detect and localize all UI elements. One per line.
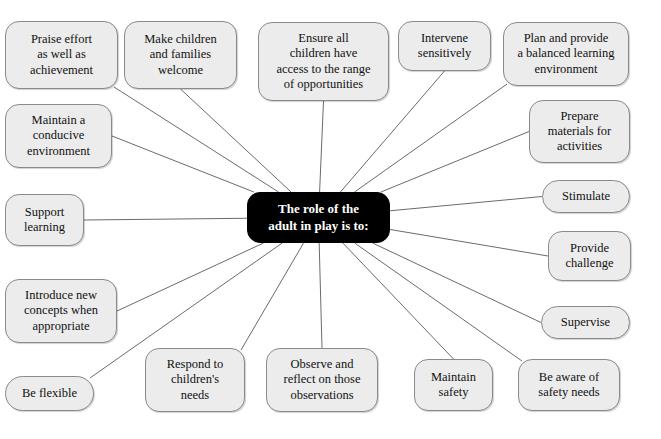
edge-respond-needs-to-center [241,243,304,350]
node-label-ensure-access: Ensure all children have access to the r… [264,31,383,92]
node-introduce-concepts[interactable]: Introduce new concepts when appropriate [5,279,117,343]
node-be-aware-safety[interactable]: Be aware of safety needs [518,359,620,411]
edge-introduce-concepts-to-center [117,243,264,311]
edge-make-welcome-to-center [181,89,292,192]
node-label-plan-provide: Plan and provide a balanced learning env… [509,31,623,77]
node-label-be-flexible: Be flexible [11,386,88,401]
node-label-intervene: Intervene sensitively [404,31,485,62]
edge-prepare-materials-to-center [381,132,529,193]
node-label-maintain-conducive: Maintain a conducive environment [11,113,106,159]
node-label-be-aware-safety: Be aware of safety needs [524,370,614,401]
node-respond-needs[interactable]: Respond to children's needs [145,348,245,412]
node-praise-effort[interactable]: Praise effort as well as achievement [5,21,118,89]
node-supervise[interactable]: Supervise [541,306,630,339]
edge-support-learning-to-center [84,218,247,220]
node-label-support-learning: Support learning [11,205,78,236]
edge-stimulate-to-center [390,197,542,211]
node-label-introduce-concepts: Introduce new concepts when appropriate [11,288,111,334]
edge-maintain-conducive-to-center [112,136,254,192]
node-label-observe-reflect: Observe and reflect on those observation… [272,357,372,403]
node-be-flexible[interactable]: Be flexible [5,376,94,411]
node-observe-reflect[interactable]: Observe and reflect on those observation… [266,348,378,412]
edge-observe-reflect-to-center [319,243,322,348]
node-maintain-conducive[interactable]: Maintain a conducive environment [5,104,112,168]
edge-provide-challenge-to-center [390,229,548,256]
node-make-welcome[interactable]: Make children and families welcome [124,21,237,89]
node-label-provide-challenge: Provide challenge [554,241,625,272]
node-label-respond-needs: Respond to children's needs [151,357,239,403]
center-node[interactable]: The role of the adult in play is to: [247,192,390,243]
node-support-learning[interactable]: Support learning [5,194,84,246]
node-plan-provide[interactable]: Plan and provide a balanced learning env… [503,22,629,86]
node-prepare-materials[interactable]: Prepare materials for activities [529,100,630,163]
node-ensure-access[interactable]: Ensure all children have access to the r… [258,22,389,101]
node-label-make-welcome: Make children and families welcome [130,32,231,78]
edge-praise-effort-to-center [114,87,279,192]
node-intervene[interactable]: Intervene sensitively [398,21,491,71]
node-stimulate[interactable]: Stimulate [542,180,630,213]
node-label-maintain-safety: Maintain safety [420,370,487,401]
node-provide-challenge[interactable]: Provide challenge [548,231,631,281]
center-node-label: The role of the adult in play is to: [253,201,384,234]
edge-supervise-to-center [373,243,541,323]
node-label-stimulate: Stimulate [548,189,624,204]
edge-ensure-access-to-center [320,101,324,192]
node-label-supervise: Supervise [547,315,624,330]
edge-be-aware-safety-to-center [355,243,522,361]
edge-maintain-safety-to-center [343,243,454,359]
node-label-praise-effort: Praise effort as well as achievement [11,32,112,78]
node-maintain-safety[interactable]: Maintain safety [414,359,493,411]
node-label-prepare-materials: Prepare materials for activities [535,109,624,155]
mind-map-canvas: The role of the adult in play is to:Prai… [0,0,661,439]
